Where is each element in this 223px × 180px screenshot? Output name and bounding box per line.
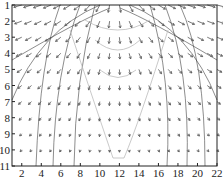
contour-lines (12, 5, 217, 166)
x-tick-label: 22 (212, 167, 223, 179)
y-tick-label: 4 (5, 47, 11, 59)
quiver-chart: 246810121416182022 1234567891011 (0, 0, 223, 180)
y-axis-ticks: 1234567891011 (0, 0, 15, 172)
y-tick-label: 8 (5, 112, 11, 124)
x-tick-label: 16 (153, 167, 165, 179)
x-tick-label: 2 (19, 167, 25, 179)
x-axis-ticks: 246810121416182022 (19, 163, 222, 179)
x-tick-label: 12 (114, 167, 125, 179)
y-tick-label: 9 (5, 128, 11, 140)
y-tick-label: 6 (5, 80, 11, 92)
x-tick-label: 10 (94, 167, 106, 179)
plot-frame (12, 5, 217, 166)
vector-arrows (14, 5, 223, 152)
y-tick-label: 10 (0, 144, 11, 156)
y-tick-label: 11 (0, 160, 10, 172)
y-tick-label: 1 (5, 0, 11, 11)
y-tick-label: 3 (5, 31, 11, 43)
x-tick-label: 8 (78, 167, 84, 179)
y-tick-label: 5 (5, 63, 11, 75)
x-tick-label: 18 (172, 167, 184, 179)
x-tick-label: 14 (133, 167, 145, 179)
y-tick-label: 2 (5, 15, 11, 27)
x-tick-label: 4 (39, 167, 45, 179)
x-tick-label: 6 (58, 167, 64, 179)
y-tick-label: 7 (5, 96, 11, 108)
x-tick-label: 20 (192, 167, 204, 179)
